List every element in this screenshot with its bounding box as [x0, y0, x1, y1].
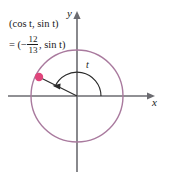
unit-circle-figure: (cos t, sin t) = (−1213, sin t) y x t [0, 0, 173, 184]
angle-arc [55, 72, 101, 96]
fraction-twelve-thirteenths: 1213 [27, 35, 38, 55]
x-axis-label: x [152, 97, 157, 108]
angle-t-label: t [86, 60, 89, 70]
point-label-line2: = (−1213, sin t) [9, 35, 66, 55]
plotted-point [35, 73, 43, 81]
point-label-line1: (cos t, sin t) [9, 19, 66, 34]
equals-open-paren-minus: = (− [9, 40, 27, 51]
point-coordinate-label: (cos t, sin t) = (−1213, sin t) [9, 19, 66, 55]
y-axis-label: y [67, 8, 72, 19]
point-label-sin-t-close: , sin t) [39, 40, 66, 51]
fraction-numerator: 12 [27, 35, 38, 44]
fraction-denominator: 13 [27, 46, 38, 55]
y-axis-arrowhead [73, 11, 80, 19]
